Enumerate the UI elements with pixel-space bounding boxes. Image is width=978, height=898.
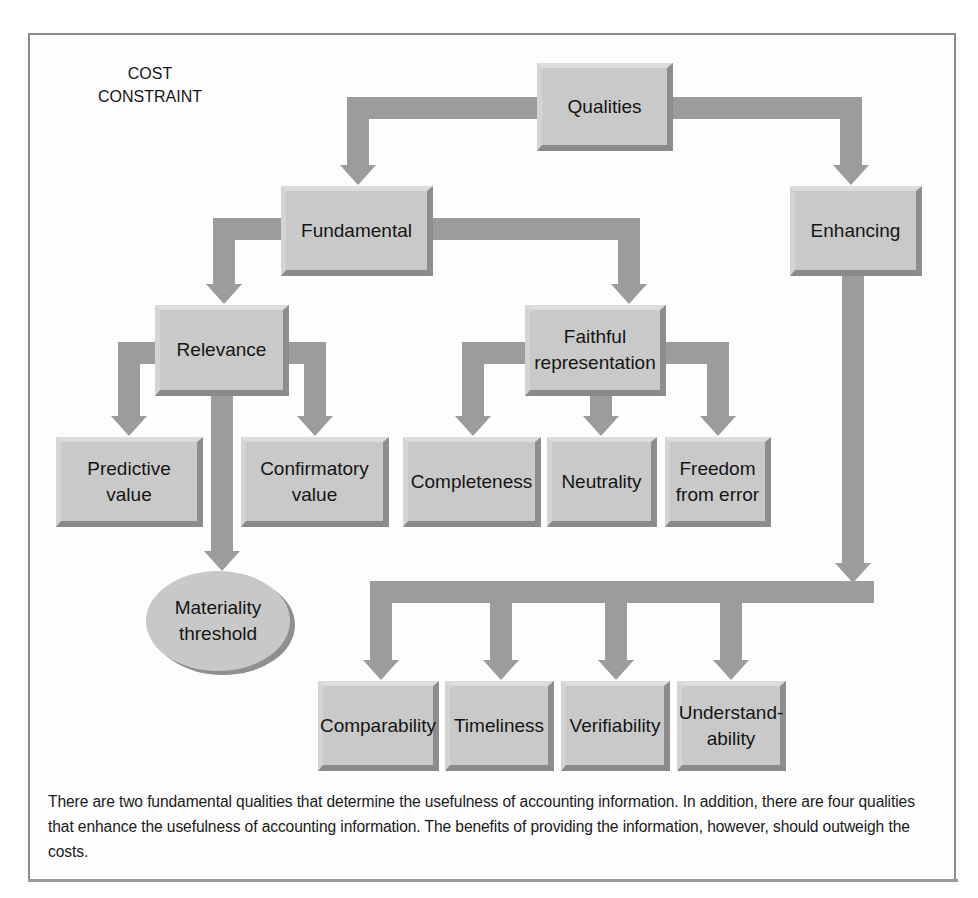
node-completeness-label: Completeness <box>411 469 532 495</box>
node-enhancing-label: Enhancing <box>811 218 901 244</box>
arrow-relevance-materiality <box>211 393 233 553</box>
cost-constraint-line-2: CONSTRAINT <box>95 85 205 108</box>
node-timeliness: Timeliness <box>445 681 554 771</box>
arrow-qualities-enhancing <box>670 97 862 119</box>
node-enhancing: Enhancing <box>790 186 922 276</box>
cost-constraint-label: COST CONSTRAINT <box>95 62 205 108</box>
node-qualities-label: Qualities <box>568 94 642 120</box>
node-predictive-value: Predictive value <box>56 437 203 527</box>
figure-caption: There are two fundamental qualities that… <box>48 789 938 864</box>
node-qualities: Qualities <box>537 63 673 151</box>
node-faithful-representation: Faithful representation <box>525 305 666 396</box>
node-relevance: Relevance <box>155 305 289 396</box>
arrow-enhancing-down <box>842 273 864 565</box>
node-fundamental: Fundamental <box>281 186 433 276</box>
node-confirmatory-line-2: value <box>292 482 337 508</box>
node-comparability: Comparability <box>318 681 439 771</box>
node-materiality-line-2: threshold <box>179 621 257 647</box>
node-comparability-label: Comparability <box>320 713 436 739</box>
node-neutrality: Neutrality <box>547 437 657 527</box>
node-understandability-line-1: Understand- <box>679 700 784 726</box>
node-materiality-threshold: Materiality threshold <box>146 571 290 671</box>
node-faithful-line-2: representation <box>534 350 655 376</box>
node-completeness: Completeness <box>403 437 541 527</box>
node-understandability-line-2: ability <box>707 726 756 752</box>
node-predictive-line-2: value <box>106 482 151 508</box>
node-relevance-label: Relevance <box>177 337 267 363</box>
arrow-fundamental-faithful <box>430 218 640 240</box>
node-predictive-line-1: Predictive <box>87 456 170 482</box>
node-faithful-line-1: Faithful <box>564 324 626 350</box>
node-neutrality-label: Neutrality <box>561 469 641 495</box>
arrow-faithful-neutrality <box>590 393 612 418</box>
node-confirmatory-value: Confirmatory value <box>241 437 389 527</box>
node-verifiability-label: Verifiability <box>570 713 661 739</box>
node-fundamental-label: Fundamental <box>301 218 412 244</box>
node-confirmatory-line-1: Confirmatory <box>260 456 369 482</box>
node-timeliness-label: Timeliness <box>454 713 544 739</box>
node-verifiability: Verifiability <box>561 681 670 771</box>
cost-constraint-line-1: COST <box>95 62 205 85</box>
arrow-qualities-fundamental <box>347 97 539 119</box>
node-understandability: Understand- ability <box>677 681 786 771</box>
node-freedom-from-error: Freedom from error <box>665 437 771 527</box>
node-freedom-line-2: from error <box>676 482 759 508</box>
node-materiality-line-1: Materiality <box>175 595 262 621</box>
node-freedom-line-1: Freedom <box>679 456 755 482</box>
